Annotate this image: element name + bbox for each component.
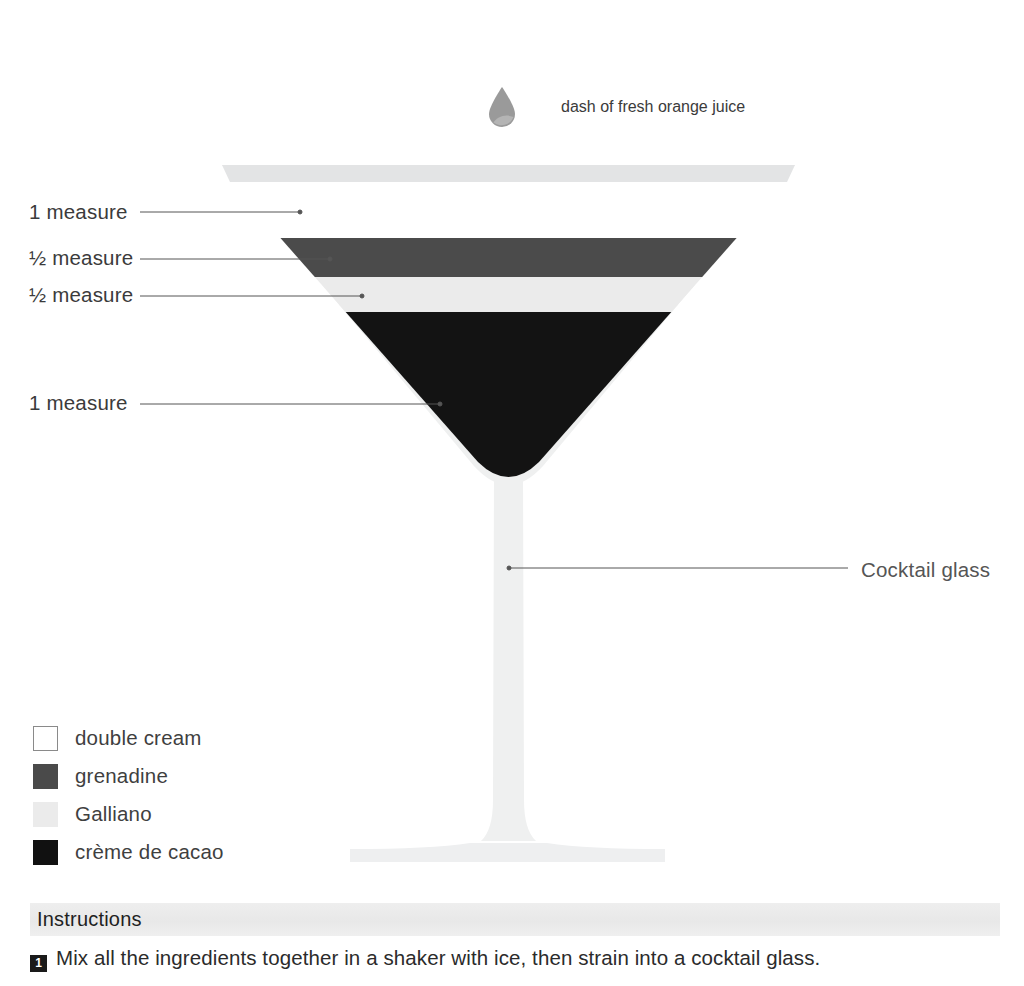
instructions-heading: Instructions	[37, 909, 142, 929]
legend-swatch-grenadine	[33, 764, 58, 789]
legend-item-galliano: Galliano	[33, 802, 224, 827]
glass-base	[350, 843, 665, 862]
measure-label-creme-de-cacao: 1 measure	[29, 393, 128, 414]
liquid-layers	[200, 170, 840, 502]
leader-dot-0	[298, 210, 302, 214]
layer-grenadine	[200, 238, 840, 277]
measure-label-double-cream: 1 measure	[29, 202, 128, 223]
measure-label-galliano: ½ measure	[29, 285, 133, 306]
leader-dot-3	[438, 402, 442, 406]
instructions-banner	[30, 903, 1000, 936]
ingredient-legend: double cream grenadine Galliano crème de…	[33, 726, 224, 865]
layer-double-cream	[200, 170, 840, 238]
legend-swatch-creme-de-cacao	[33, 840, 58, 865]
legend-item-grenadine: grenadine	[33, 764, 224, 789]
legend-item-double-cream: double cream	[33, 726, 224, 751]
leader-dot-glass	[507, 566, 511, 570]
leader-dot-1	[328, 257, 332, 261]
instruction-step: 1 Mix all the ingredients together in a …	[30, 948, 820, 970]
glass-stem	[481, 470, 536, 841]
measure-label-grenadine: ½ measure	[29, 248, 133, 269]
legend-label-creme-de-cacao: crème de cacao	[75, 842, 224, 863]
legend-swatch-double-cream	[33, 726, 58, 751]
glass-leader-line	[507, 566, 848, 570]
measure-leader-lines	[140, 210, 442, 406]
layer-creme-de-cacao	[200, 312, 840, 502]
droplet-icon	[487, 86, 517, 128]
legend-swatch-galliano	[33, 802, 58, 827]
legend-label-double-cream: double cream	[75, 728, 202, 749]
layer-galliano	[200, 277, 840, 312]
recipe-diagram-page: dash of fresh orange juice	[0, 0, 1024, 986]
glass-bowl	[222, 165, 795, 485]
garnish-label: dash of fresh orange juice	[561, 98, 745, 116]
glass-rim	[222, 165, 795, 182]
leader-dot-2	[360, 294, 364, 298]
legend-label-galliano: Galliano	[75, 804, 152, 825]
glass-body	[222, 165, 795, 862]
garnish-note: dash of fresh orange juice	[487, 86, 745, 128]
legend-label-grenadine: grenadine	[75, 766, 168, 787]
instruction-step-text: Mix all the ingredients together in a sh…	[56, 948, 820, 969]
cocktail-glass-label: Cocktail glass	[861, 560, 990, 581]
instruction-step-number: 1	[30, 955, 47, 972]
legend-item-creme-de-cacao: crème de cacao	[33, 840, 224, 865]
